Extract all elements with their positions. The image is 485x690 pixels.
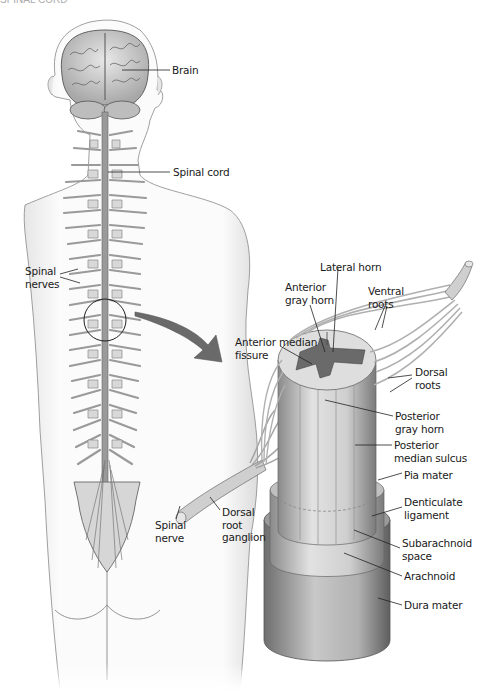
label-denticulate-ligament: Denticulate ligament [404,496,462,521]
label-posterior-median-sulcus: Posterior median sulcus [394,439,467,464]
label-dorsal-root-ganglion: Dorsal root ganglion [222,506,266,544]
label-anterior-gray-horn: Anterior gray horn [285,281,334,306]
label-arachnoid: Arachnoid [404,570,455,583]
label-spinal-nerve: Spinal nerve [155,519,186,544]
label-ventral-roots: Ventral roots [368,285,404,310]
spinal-cord-anatomy-figure: SPINAL CORD [0,0,485,690]
label-dorsal-roots: Dorsal roots [415,366,447,391]
label-subarachnoid-space: Subarachnoid space [402,537,472,562]
label-posterior-gray-horn: Posterior gray horn [395,410,444,435]
label-pia-mater: Pia mater [404,469,453,482]
label-brain: Brain [172,64,199,77]
label-spinal-cord: Spinal cord [173,166,229,179]
label-lateral-horn: Lateral horn [320,261,381,274]
label-dura-mater: Dura mater [404,599,462,612]
label-anterior-median-fissure: Anterior median fissure [235,336,317,361]
label-spinal-nerves: Spinal nerves [25,265,59,290]
